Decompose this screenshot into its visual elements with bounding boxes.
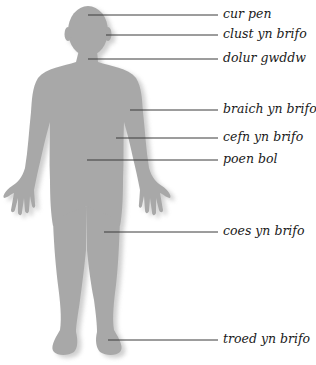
- label-back: cefn yn brifo: [223, 130, 303, 144]
- head: [68, 6, 108, 56]
- label-foot: troed yn brifo: [223, 332, 310, 346]
- label-ear: clust yn brifo: [223, 27, 307, 41]
- body-silhouette: [3, 6, 170, 355]
- label-stomach: poen bol: [223, 152, 277, 166]
- label-arm: braich yn brifo: [223, 102, 316, 116]
- label-head: cur pen: [223, 7, 271, 21]
- leg-left: [52, 206, 86, 355]
- ear-right: [105, 27, 112, 41]
- label-throat: dolur gwddw: [223, 51, 306, 65]
- label-leg: coes yn brifo: [223, 224, 305, 238]
- ear-left: [65, 27, 72, 41]
